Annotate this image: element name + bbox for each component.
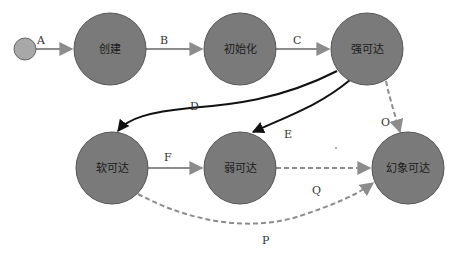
node-init: 初始化 [204,13,276,85]
node-label-init: 初始化 [224,42,257,56]
edge-label-a: A [36,34,46,47]
node-soft-reachable: 软可达 [76,132,148,204]
edge-label-b: B [160,34,168,47]
node-label-weak: 弱可达 [224,162,257,175]
edge-label-c: C [293,34,301,47]
edge-label-q: Q [312,184,321,197]
node-strong-reachable: 强可达 [331,13,403,85]
state-diagram: A B C D E F O Q P 创建 初始化 [0,0,455,255]
edge-label-o: O [381,116,390,129]
node-label-phantom: 幻象可达 [386,162,430,175]
node-label-created: 创建 [99,42,121,56]
stray-dot [335,147,337,149]
edge-label-d: D [190,100,199,113]
edge-label-p: P [262,234,270,247]
edge-e [253,80,350,132]
edge-label-f: F [164,151,172,164]
start-node [14,38,36,60]
node-label-strong: 强可达 [351,43,384,56]
node-created: 创建 [74,13,146,85]
node-phantom-reachable: 幻象可达 [372,132,444,204]
node-label-soft: 软可达 [96,161,129,175]
node-weak-reachable: 弱可达 [204,132,276,204]
edge-label-e: E [284,128,292,141]
